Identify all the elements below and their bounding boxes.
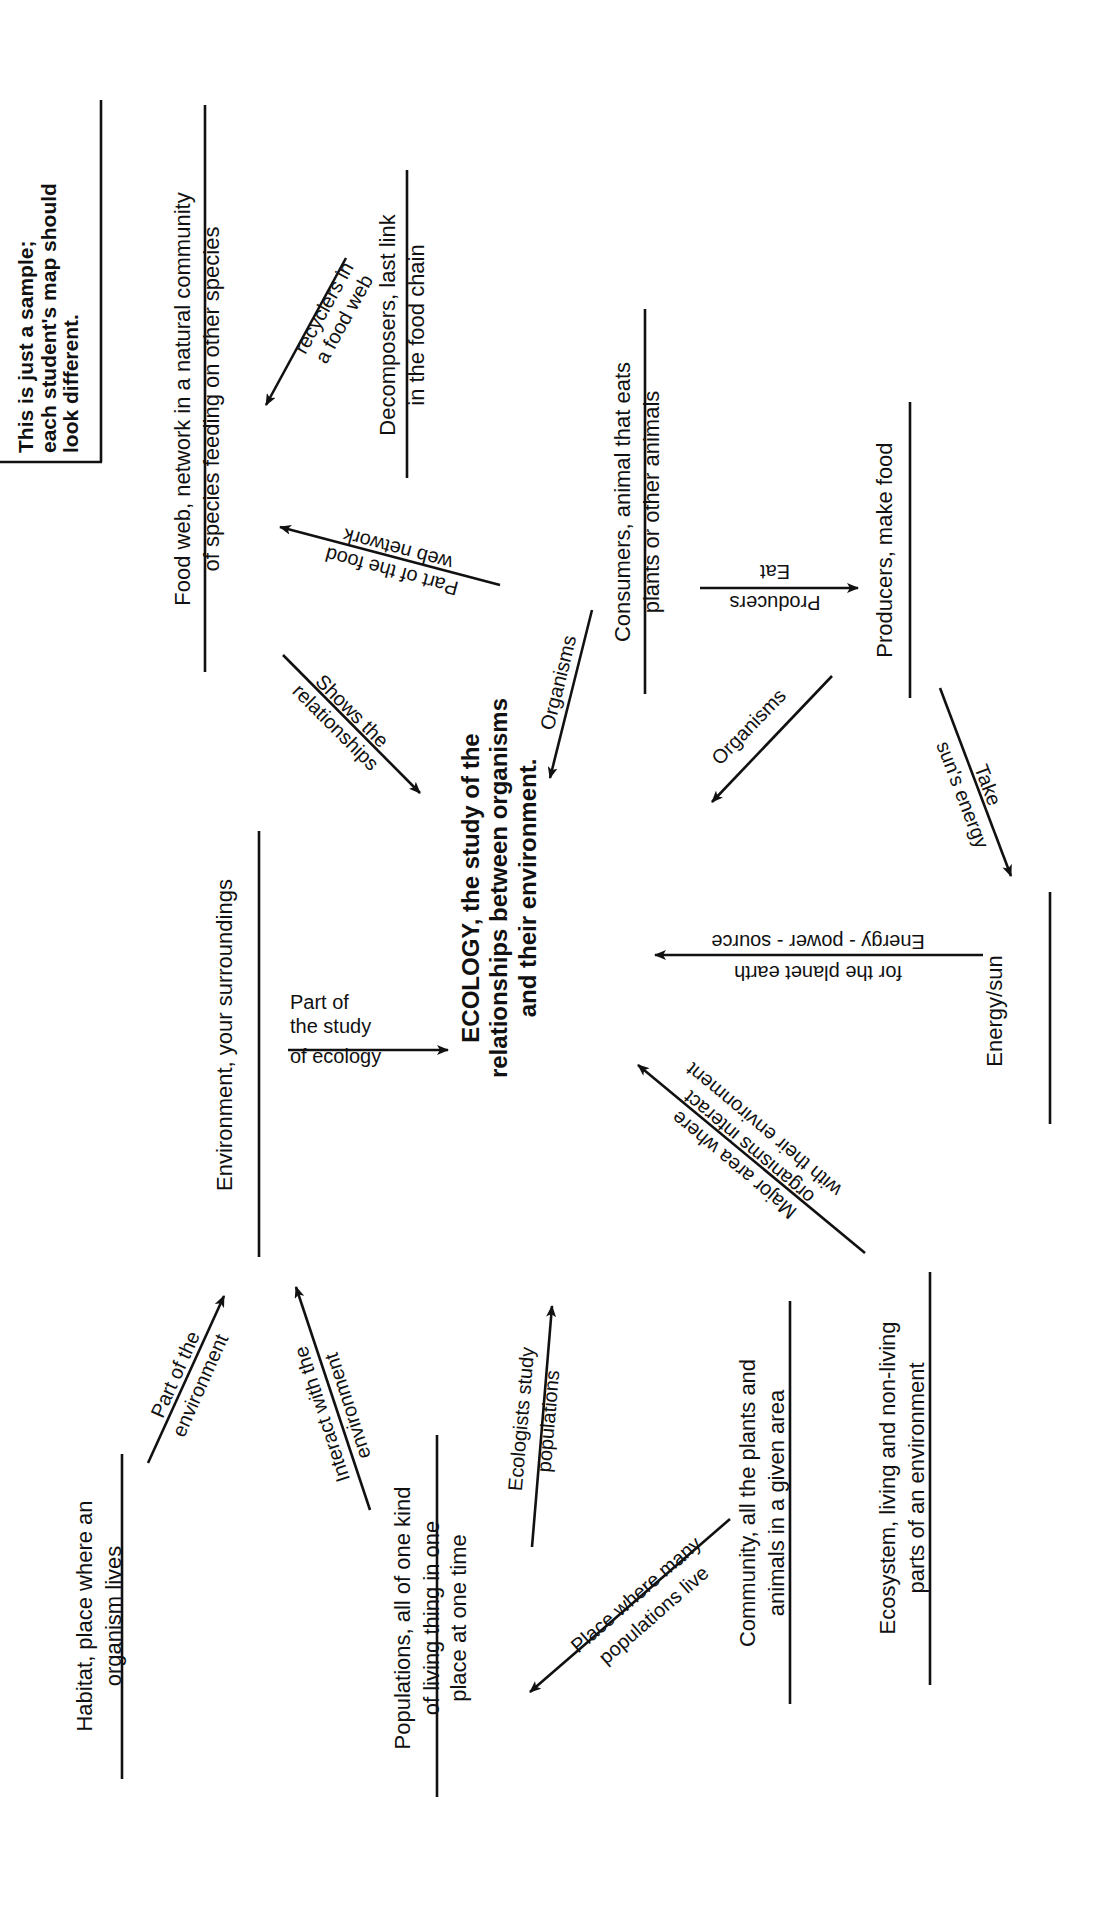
sample-note: This is just a sample; each student's ma… [15,123,95,453]
ecosystem-definition: parts of an environment [904,1268,931,1688]
note-line-1: This is just a sample; [15,123,38,453]
node-environment: Environment, your surroundings [212,825,248,1245]
food-web-definition: of species feeding on other species [199,94,226,704]
environment-term: Environment, your surroundings [212,825,241,1245]
node-decomposers: Decomposers, last link in the food chain [375,170,445,480]
concept-map: This is just a sample; each student's ma… [0,0,1112,1924]
center-line-2: relationships between organisms [485,683,513,1093]
node-consumers: Consumers, animal that eats plants or ot… [610,312,680,692]
consumers-definition: plants or other animals [639,312,666,692]
note-line-3: look different. [60,123,83,453]
populations-definition-1: of living thing in one [419,1438,446,1798]
node-energy-sun: Energy/sun [982,891,1018,1131]
food-web-term: Food web, network in a natural community [170,94,199,704]
consumers-term: Consumers, animal that eats [610,312,639,692]
populations-term: Populations, all of one kind [390,1438,419,1798]
node-populations: Populations, all of one kind of living t… [390,1438,486,1798]
node-community: Community, all the plants and animals in… [735,1303,805,1703]
habitat-definition: organism lives [101,1451,128,1781]
node-ecosystem: Ecosystem, living and non-living parts o… [875,1268,945,1688]
link-label-energy-power-source: for the planet earth Energy - power - so… [668,928,968,984]
center-line-3: and their environment. [514,683,542,1093]
producers-term: Producers, make food [872,400,901,700]
populations-definition-2: place at one time [446,1438,473,1798]
link-label-part-of-study: Part of the study of ecology [290,990,440,1068]
community-definition: animals in a given area [764,1303,791,1703]
link-label-eat-producers: Producers Eat [700,566,850,614]
center-line-1: ECOLOGY, the study of the [457,683,485,1093]
decomposers-term: Decomposers, last link [375,170,404,480]
central-concept-ecology: ECOLOGY, the study of the relationships … [457,683,547,1093]
node-producers: Producers, make food [872,400,908,700]
node-food-web: Food web, network in a natural community… [170,94,240,704]
decomposers-definition: in the food chain [404,170,431,480]
node-habitat: Habitat, place where an organism lives [72,1451,142,1781]
habitat-term: Habitat, place where an [72,1451,101,1781]
note-line-2: each student's map should [38,123,61,453]
ecosystem-term: Ecosystem, living and non-living [875,1268,904,1688]
energy-sun-term: Energy/sun [982,891,1011,1131]
community-term: Community, all the plants and [735,1303,764,1703]
